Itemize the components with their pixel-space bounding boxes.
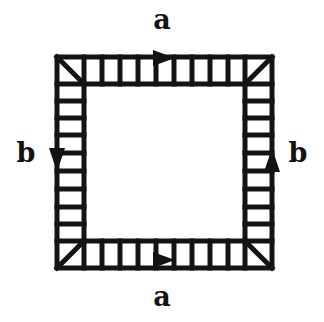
figure-root: a a b b [0,0,324,322]
left-edge-cell-dividers [57,84,84,241]
corner-diagonal-bottom-left [57,241,84,268]
corner-diagonal-top-left [57,57,84,84]
edge-label-b-right: b [276,139,320,166]
corner-diagonal-bottom-right [245,241,272,268]
arrow-left-down-icon [49,148,65,172]
corner-diagonal-top-right [245,57,272,84]
edge-label-b-left: b [4,139,48,166]
square-interior [84,84,245,241]
edge-label-a-bottom: a [134,283,190,310]
bottom-edge-cell-dividers [84,241,245,268]
edge-label-a-top: a [134,6,190,33]
